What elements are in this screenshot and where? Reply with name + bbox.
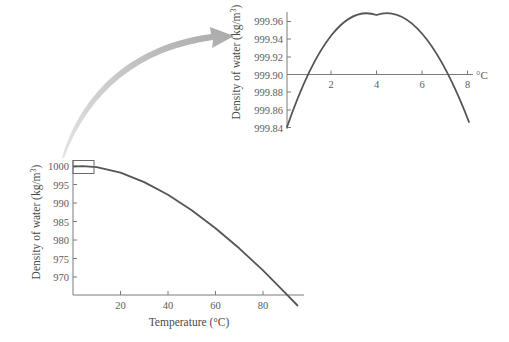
- main-y-tick-labels: 1000 995 990 985 980 975 970: [48, 161, 69, 283]
- inset-x-tick-label: 2: [328, 79, 333, 90]
- main-y-axis-title: Density of water (kg/m3): [29, 164, 44, 279]
- main-x-tick-label: 60: [210, 300, 221, 311]
- main-y-tick-label: 995: [53, 180, 69, 191]
- inset-y-tick-label: 999.86: [254, 105, 283, 116]
- inset-x-unit-label: °C: [476, 69, 488, 81]
- inset-x-tick-label: 8: [465, 79, 470, 90]
- figure-canvas: 1000 995 990 985 980 975 970 20 40 60 80…: [0, 0, 509, 342]
- main-y-ticks: [73, 166, 77, 277]
- main-y-tick-label: 985: [53, 217, 69, 228]
- inset-density-curve: [287, 13, 469, 127]
- inset-y-axis-title: Density of water (kg/m3): [229, 4, 244, 119]
- inset-y-tick-label: 999.96: [254, 16, 283, 27]
- main-x-tick-label: 80: [258, 300, 269, 311]
- main-y-tick-label: 970: [53, 272, 69, 283]
- main-y-tick-label: 975: [53, 254, 69, 265]
- main-y-tick-label: 980: [53, 235, 69, 246]
- inset-x-tick-label: 4: [374, 79, 380, 90]
- inset-y-tick-label: 999.84: [254, 123, 284, 134]
- main-chart: 1000 995 990 985 980 975 970 20 40 60 80…: [29, 160, 305, 329]
- inset-x-tick-labels: 2 4 6 8: [328, 79, 470, 90]
- main-density-curve: [73, 166, 298, 306]
- magnify-arrow: [62, 27, 234, 158]
- inset-x-tick-label: 6: [419, 79, 424, 90]
- inset-y-tick-labels: 999.96 999.94 999.92 999.90 999.88 999.8…: [254, 16, 284, 134]
- inset-chart: 999.96 999.94 999.92 999.90 999.88 999.8…: [229, 4, 488, 133]
- main-x-tick-label: 40: [163, 300, 174, 311]
- inset-y-tick-label: 999.88: [254, 87, 283, 98]
- main-x-ticks: [121, 291, 264, 295]
- main-x-axis-title: Temperature (°C): [149, 316, 230, 329]
- inset-y-tick-label: 999.94: [254, 34, 284, 45]
- inset-y-tick-label: 999.92: [254, 52, 283, 63]
- main-x-tick-label: 20: [115, 300, 126, 311]
- main-x-tick-labels: 20 40 60 80: [115, 300, 268, 311]
- inset-y-tick-label: 999.90: [254, 70, 283, 81]
- main-y-tick-label: 990: [53, 198, 69, 209]
- main-y-tick-label: 1000: [48, 161, 69, 172]
